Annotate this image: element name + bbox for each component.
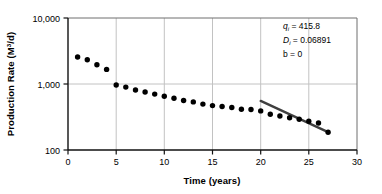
data-point (200, 101, 205, 106)
x-tick-label-5: 5 (114, 157, 119, 167)
data-point (85, 57, 90, 62)
y-axis-title: Production Rate (M3/d) (5, 32, 16, 136)
data-point (316, 120, 321, 125)
data-point (152, 91, 157, 96)
x-tick-label-30: 30 (352, 157, 362, 167)
data-point (114, 82, 119, 87)
data-point (142, 89, 147, 94)
x-tick-label-25: 25 (304, 157, 314, 167)
x-tick-label-20: 20 (256, 157, 266, 167)
annotation-b-value: 0 (297, 49, 302, 59)
svg-text:Production Rate (M3/d): Production Rate (M3/d) (5, 32, 16, 136)
data-point (162, 94, 167, 99)
data-point (210, 103, 215, 108)
annotation-b: b = 0 (283, 49, 302, 59)
chart-canvas: 10,000 1,000 100 0 5 10 15 20 25 30 Time… (0, 0, 382, 194)
x-tick-label-0: 0 (65, 157, 70, 167)
data-point (94, 62, 99, 67)
x-axis-title: Time (years) (184, 175, 241, 186)
annotation-qi-value: 415.8 (299, 21, 321, 31)
y-axis-title-prefix: Production Rate (M (5, 47, 16, 136)
data-point (248, 107, 253, 112)
data-point (306, 119, 311, 124)
data-point (258, 108, 263, 113)
data-point (287, 115, 292, 120)
data-point (171, 96, 176, 101)
annotation-Di-value: 0.06891 (300, 35, 331, 45)
data-point (191, 99, 196, 104)
data-point (268, 112, 273, 117)
data-point (181, 98, 186, 103)
production-decline-chart: 10,000 1,000 100 0 5 10 15 20 25 30 Time… (0, 0, 382, 194)
x-tick-label-15: 15 (207, 157, 217, 167)
y-tick-label-10000: 10,000 (32, 14, 60, 24)
annotation-qi: qi = 415.8 (283, 21, 320, 32)
y-tick-label-100: 100 (45, 146, 60, 156)
x-tick-label-10: 10 (159, 157, 169, 167)
data-point (75, 54, 80, 59)
data-point (104, 67, 109, 72)
data-point (277, 113, 282, 118)
data-point (133, 87, 138, 92)
data-point (325, 130, 330, 135)
data-point (297, 117, 302, 122)
data-point (229, 105, 234, 110)
annotation-Di: Di = 0.06891 (283, 35, 331, 46)
y-tick-label-1000: 1,000 (37, 80, 60, 90)
data-point (123, 84, 128, 89)
y-axis-title-suffix: /d) (5, 32, 16, 44)
data-point (239, 107, 244, 112)
data-point (219, 104, 224, 109)
